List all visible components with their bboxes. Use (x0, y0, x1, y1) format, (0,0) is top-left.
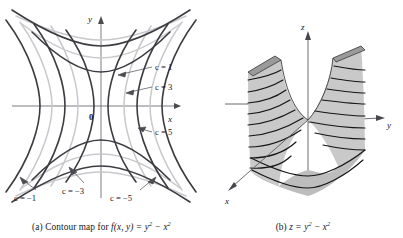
caption-b-prefix: (b) (276, 222, 287, 232)
surface-z-axis-label: z (300, 22, 305, 32)
contour-label-c-5: c = 5 (155, 127, 172, 137)
leader-arrow-c5 (138, 127, 146, 132)
contour-y-axis-label: y (87, 14, 92, 24)
contour-origin-label: 0 (89, 112, 93, 122)
y-axis-arrowhead (376, 115, 385, 121)
surface-x-axis-label: x (224, 196, 229, 206)
leader-arrow-c1 (118, 72, 126, 77)
contour-label-c-1: c = 1 (155, 62, 172, 72)
surface-axis-z (305, 31, 311, 182)
contour-label-c-neg-1: c = −1 (14, 193, 36, 203)
caption-a-prefix: (a) Contour map for (32, 222, 109, 232)
leader-arrow-c3 (126, 90, 134, 95)
caption-panel-a: (a) Contour map for f(x, y) = y2 − x2 (0, 222, 203, 232)
x-axis-arrowhead (174, 103, 181, 109)
contour-label-c-neg-3: c = −3 (62, 186, 84, 196)
contour-x-axis-label: x (167, 114, 172, 124)
surface-plot: z y x (203, 0, 403, 212)
surface-svg: z y x (203, 0, 403, 212)
caption-a-function: f(x, y) = y2 − x2 (111, 222, 171, 232)
panel-contour-map: x y 0 c = 1 c = 3 c = 5 c = −1 c = −3 c … (0, 0, 203, 238)
contour-svg: x y 0 c = 1 c = 3 c = 5 c = −1 c = −3 c … (0, 0, 203, 212)
surface-left-wing (248, 56, 308, 186)
caption-b-function: z = y2 − x2 (289, 222, 330, 232)
surface-y-axis-label: y (386, 120, 391, 130)
contour-plot: x y 0 c = 1 c = 3 c = 5 c = −1 c = −3 c … (0, 0, 203, 212)
leader-line-c1 (122, 67, 152, 74)
contour-label-c-neg-5: c = −5 (110, 193, 132, 203)
z-axis-arrowhead (305, 31, 311, 40)
y-axis-arrowhead (98, 16, 104, 24)
figure-container: x y 0 c = 1 c = 3 c = 5 c = −1 c = −3 c … (0, 0, 403, 238)
caption-panel-b: (b) z = y2 − x2 (203, 222, 403, 232)
panel-surface-plot: z y x (b) z = y2 − x2 (203, 0, 403, 238)
contour-label-c-3: c = 3 (155, 82, 172, 92)
